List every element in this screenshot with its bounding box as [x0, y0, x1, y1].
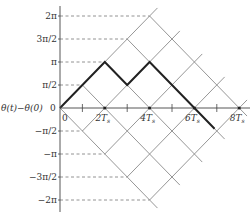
x-tick-label: 4Ts: [139, 113, 155, 124]
y-tick-label: −3π/2: [29, 172, 57, 182]
y-tick-label: −π: [44, 149, 58, 159]
trellis-up-line: [127, 77, 224, 177]
y-tick-label: −2π: [38, 195, 57, 205]
x-node-dot: [193, 106, 196, 109]
x-tick-label: 2Ts: [94, 113, 110, 124]
x-tick-label: 8Ts: [230, 113, 245, 124]
y-tick-label: π/2: [42, 80, 57, 90]
trellis-up-line: [105, 54, 202, 154]
phase-trellis-diagram: θ(t)−θ(0) 0 0 2π3π/2ππ/2−π/2−π−3π/2−2π2T…: [0, 0, 251, 220]
y-origin-label: 0: [50, 103, 56, 113]
trellis-down-line: [150, 16, 247, 116]
y-tick-label: 2π: [45, 11, 57, 21]
trellis-down-line: [82, 85, 179, 185]
x-tick-label: 6Ts: [185, 113, 200, 124]
x-node-dot: [148, 106, 151, 109]
y-axis-label: θ(t)−θ(0): [1, 103, 43, 113]
x-origin-label: 0: [62, 113, 68, 123]
y-tick-label: 3π/2: [37, 34, 57, 44]
x-node-dot: [238, 106, 241, 109]
y-tick-label: π: [51, 57, 57, 67]
axes: [60, 6, 250, 212]
x-node-dot: [103, 106, 106, 109]
y-tick-label: −π/2: [35, 126, 57, 136]
